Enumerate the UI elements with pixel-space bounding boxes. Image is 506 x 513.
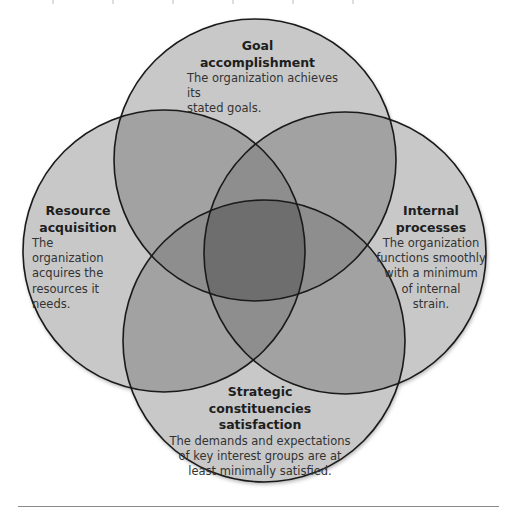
desc-strategic-line3: least minimally satisfied. <box>160 464 360 479</box>
label-goal-accomplishment: Goal accomplishment The organization ach… <box>175 38 340 117</box>
desc-goal-line2: stated goals. <box>175 101 340 116</box>
title-goal-line1: Goal <box>175 38 340 55</box>
bottom-divider <box>18 506 499 507</box>
desc-internal-line2: functions smoothly <box>376 251 486 266</box>
desc-internal-line5: strain. <box>376 297 486 312</box>
title-resource-line1: Resource <box>28 203 128 220</box>
desc-strategic-line2: of key interest groups are at <box>160 449 360 464</box>
title-internal-line2: processes <box>376 220 486 237</box>
desc-goal-line1: The organization achieves its <box>175 71 340 101</box>
desc-resource-line3: resources it <box>28 282 128 297</box>
desc-internal-line3: with a minimum <box>376 266 486 281</box>
title-strategic-line2: constituencies <box>160 401 360 418</box>
desc-strategic-line1: The demands and expectations <box>160 434 360 449</box>
title-resource-line2: acquisition <box>28 220 128 237</box>
desc-resource-line2: acquires the <box>28 266 128 281</box>
label-strategic-constituencies: Strategic constituencies satisfaction Th… <box>160 384 360 479</box>
desc-resource-line4: needs. <box>28 297 128 312</box>
title-internal-line1: Internal <box>376 203 486 220</box>
desc-internal-line1: The organization <box>376 236 486 251</box>
desc-internal-line4: of internal <box>376 282 486 297</box>
label-internal-processes: Internal processes The organization func… <box>376 203 486 312</box>
desc-resource-line1: The organization <box>28 236 128 266</box>
title-strategic-line3: satisfaction <box>160 417 360 434</box>
label-resource-acquisition: Resource acquisition The organization ac… <box>28 203 128 312</box>
title-strategic-line1: Strategic <box>160 384 360 401</box>
title-goal-line2: accomplishment <box>175 55 340 72</box>
